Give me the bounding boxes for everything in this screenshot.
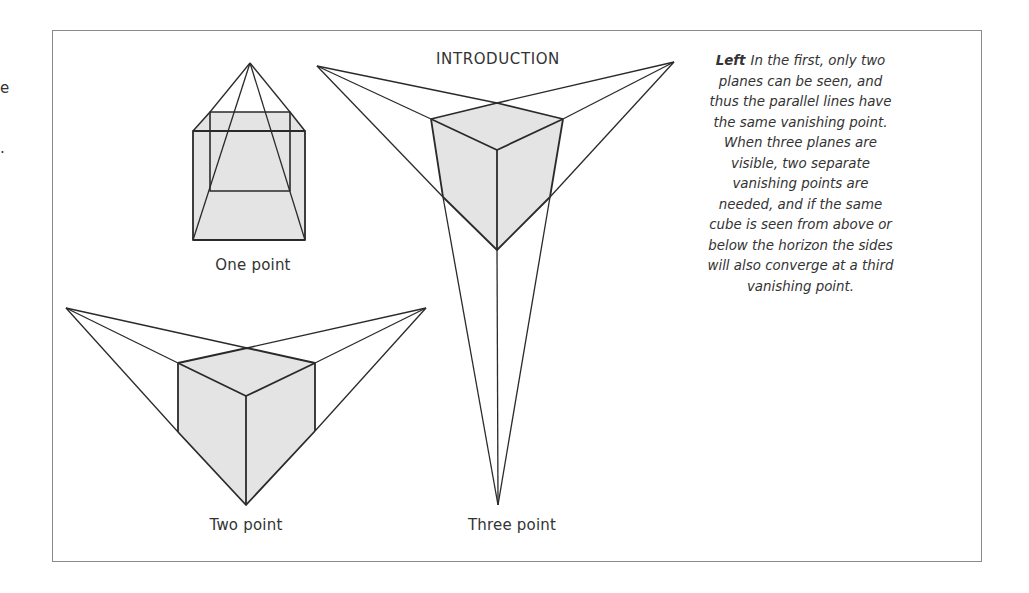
figure-caption: LeftIn the first, only two planes can be… bbox=[693, 51, 908, 297]
three-point-label: Three point bbox=[468, 516, 556, 534]
caption-line: vanishing points are bbox=[693, 174, 908, 195]
caption-line: LeftIn the first, only two bbox=[693, 51, 908, 72]
caption-line: planes can be seen, and bbox=[693, 72, 908, 93]
one-point-label: One point bbox=[215, 256, 290, 274]
caption-line: vanishing point. bbox=[693, 277, 908, 298]
two-point-label: Two point bbox=[210, 516, 283, 534]
caption-line: needed, and if the same bbox=[693, 195, 908, 216]
three-point-cube-figure bbox=[317, 62, 674, 505]
caption-line: When three planes are bbox=[693, 133, 908, 154]
caption-line: cube is seen from above or bbox=[693, 215, 908, 236]
caption-lead: Left bbox=[716, 53, 746, 68]
caption-line: visible, two separate bbox=[693, 154, 908, 175]
caption-line: will also converge at a third bbox=[693, 256, 908, 277]
one-point-cube-figure bbox=[193, 63, 305, 240]
caption-line: below the horizon the sides bbox=[693, 236, 908, 257]
section-heading: INTRODUCTION bbox=[436, 50, 560, 68]
caption-line: thus the parallel lines have bbox=[693, 92, 908, 113]
caption-line: the same vanishing point. bbox=[693, 113, 908, 134]
two-point-cube-figure bbox=[66, 308, 426, 505]
caption-text: In the first, only two bbox=[751, 53, 886, 68]
